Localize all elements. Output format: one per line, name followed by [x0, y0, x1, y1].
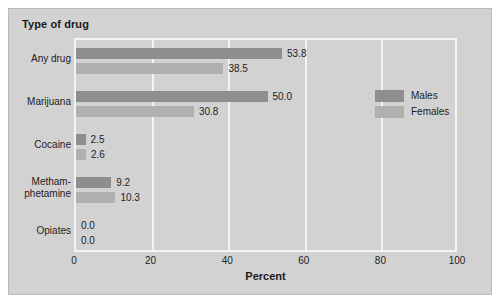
x-axis-ticks: 020406080100 [74, 255, 457, 269]
page-title: Type of drug [22, 18, 89, 30]
x-tick-80: 80 [375, 255, 386, 266]
bar-value-label: 2.6 [91, 149, 105, 160]
bar-value-label: 10.3 [120, 192, 139, 203]
bar-females-metham-phetamine [76, 192, 115, 203]
bar-males-cocaine [76, 134, 86, 145]
bar-value-label: 50.0 [273, 91, 292, 102]
x-tick-40: 40 [222, 255, 233, 266]
legend-swatch-males [375, 90, 404, 102]
gridline [381, 40, 383, 250]
category-label-metham-phetamine: Metham-phetamine [24, 176, 71, 200]
category-label-line: Opiates [37, 225, 71, 237]
bar-value-label: 2.5 [91, 134, 105, 145]
legend-swatch-females [375, 106, 404, 118]
x-axis-label: Percent [74, 270, 457, 282]
category-label-line: Marijuana [27, 96, 71, 108]
category-label-line: Metham- [24, 176, 71, 188]
bar-value-label: 9.2 [116, 177, 130, 188]
bar-females-any-drug [76, 63, 223, 74]
legend-label-females: Females [411, 106, 449, 118]
x-tick-0: 0 [71, 255, 77, 266]
category-label-cocaine: Cocaine [34, 139, 71, 151]
category-label-marijuana: Marijuana [27, 96, 71, 108]
category-label-opiates: Opiates [37, 225, 71, 237]
bar-males-metham-phetamine [76, 177, 111, 188]
bar-females-cocaine [76, 149, 86, 160]
bar-value-label: 53.8 [287, 48, 306, 59]
chart-figure: Type of drug 53.838.550.030.82.52.69.210… [8, 8, 492, 295]
x-tick-20: 20 [145, 255, 156, 266]
bar-males-marijuana [76, 91, 268, 102]
legend-label-males: Males [411, 90, 438, 102]
bar-males-any-drug [76, 48, 282, 59]
category-label-line: phetamine [24, 188, 71, 200]
bar-value-label: 38.5 [228, 63, 247, 74]
bar-females-marijuana [76, 106, 194, 117]
bar-value-label: 30.8 [199, 106, 218, 117]
bar-value-label: 0.0 [81, 235, 95, 246]
category-axis-labels: Any drugMarijuanaCocaineMetham-phetamine… [9, 38, 71, 252]
category-label-any-drug: Any drug [31, 53, 71, 65]
x-tick-100: 100 [449, 255, 466, 266]
gridline [305, 40, 307, 250]
x-tick-60: 60 [298, 255, 309, 266]
plot-area: 53.838.550.030.82.52.69.210.30.00.0 [74, 38, 457, 252]
bar-value-label: 0.0 [81, 220, 95, 231]
legend: Males Females [375, 90, 475, 124]
category-label-line: Any drug [31, 53, 71, 65]
category-label-line: Cocaine [34, 139, 71, 151]
